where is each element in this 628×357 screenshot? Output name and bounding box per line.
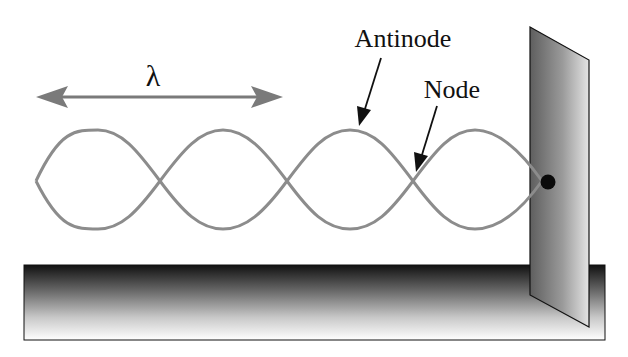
fixed-point-dot-icon <box>541 175 556 190</box>
wave-lower-envelope <box>36 181 542 229</box>
standing-wave-diagram: λ Antinode Node <box>0 0 628 357</box>
pointer-arrow-icon <box>357 106 371 126</box>
base-slab <box>24 265 605 340</box>
antinode-label: Antinode <box>355 24 452 53</box>
node-label: Node <box>424 75 480 104</box>
antinode-pointer <box>357 58 381 126</box>
wavelength-label: λ <box>146 59 161 92</box>
node-pointer <box>414 106 437 172</box>
standing-wave-string <box>36 130 542 229</box>
wave-upper-envelope <box>36 130 542 181</box>
